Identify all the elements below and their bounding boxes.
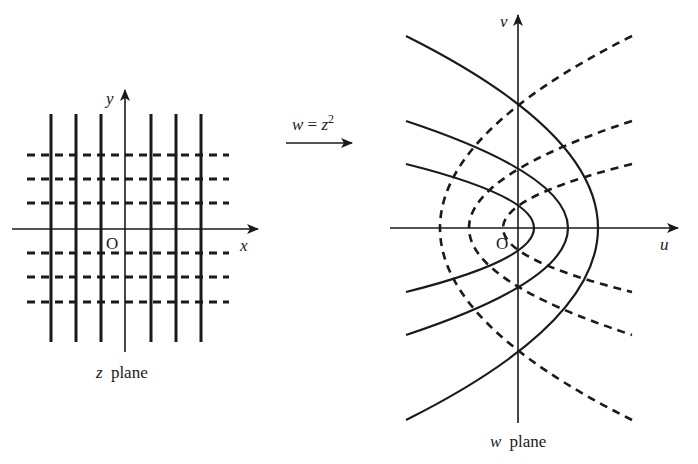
w-plane: v u O w plane — [390, 12, 678, 451]
z-plane: y x O z plane — [12, 89, 258, 382]
x-axis-label: x — [239, 236, 248, 255]
w-origin-label: O — [496, 234, 508, 253]
z-plane-vertical-solid-lines — [51, 114, 201, 342]
z-plane-caption-var: z — [95, 363, 103, 382]
w-plane-caption: w plane — [490, 432, 546, 451]
mapping: w = z2 — [286, 112, 352, 143]
mapping-lhs: w — [292, 115, 304, 134]
z-origin-label: O — [106, 234, 118, 253]
mapping-exponent: 2 — [328, 112, 334, 126]
mapping-label: w = z2 — [292, 112, 334, 134]
u-axis-label: u — [660, 235, 669, 254]
w-plane-caption-var: w — [490, 432, 502, 451]
y-axis-label: y — [104, 89, 114, 108]
conformal-mapping-diagram: y x O z plane w = z2 v u O w plane — [0, 0, 698, 464]
z-plane-caption-word: plane — [111, 363, 148, 382]
v-axis-label: v — [500, 12, 508, 31]
w-plane-caption-word: plane — [510, 432, 547, 451]
z-plane-caption: z plane — [95, 363, 148, 382]
mapping-eq: = — [303, 115, 321, 134]
